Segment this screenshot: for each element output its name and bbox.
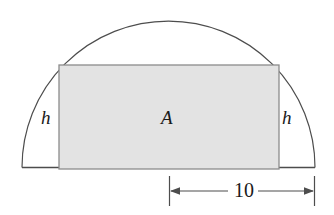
geometry-figure: h h A 10 [0,0,334,215]
area-label: A [161,108,173,127]
dimension-arrowhead-left [170,187,180,195]
height-label-right: h [282,108,292,127]
width-dimension-label: 10 [230,180,258,200]
dimension-arrowhead-right [304,187,314,195]
height-label-left: h [41,108,51,127]
